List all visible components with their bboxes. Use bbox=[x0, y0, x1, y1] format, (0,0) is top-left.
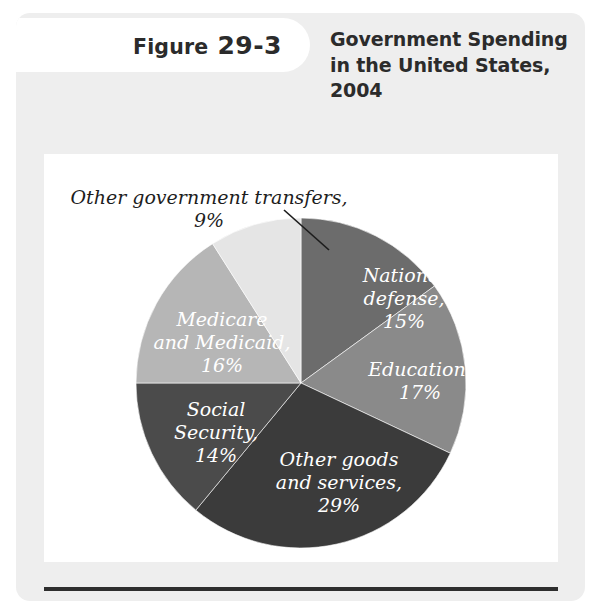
pie-slice-label-line: Medicare bbox=[175, 308, 267, 330]
pie-slice-label-line: and Medicaid, bbox=[154, 331, 291, 353]
figure-number: 29-3 bbox=[217, 31, 282, 60]
figure-number-badge-text: Figure29-3 bbox=[133, 31, 282, 60]
pie-slice-label-line: 29% bbox=[317, 494, 360, 516]
pie-slice-label-line: 15% bbox=[383, 310, 425, 332]
figure-card: Figure29-3 Government Spending in the Un… bbox=[16, 13, 585, 601]
figure-title: Government Spending in the United States… bbox=[330, 27, 580, 104]
figure-label: Figure bbox=[133, 35, 209, 59]
pie-chart-svg: Nationaldefense,15%Education,17%Other go… bbox=[44, 154, 558, 562]
pie-slice-label-line: 17% bbox=[399, 381, 441, 403]
pie-slice-label-line: 16% bbox=[201, 354, 243, 376]
pie-slice-label-line: Other government transfers, bbox=[70, 186, 347, 208]
pie-slice-label-line: Other goods bbox=[280, 448, 399, 470]
figure-bottom-rule bbox=[44, 587, 558, 591]
pie-chart: Nationaldefense,15%Education,17%Other go… bbox=[44, 154, 558, 562]
pie-slice-label-line: Education, bbox=[367, 358, 472, 380]
pie-slice-label-line: 9% bbox=[194, 209, 224, 231]
chart-panel: Nationaldefense,15%Education,17%Other go… bbox=[44, 154, 558, 562]
pie-slice-label-line: Security, bbox=[174, 421, 258, 443]
figure-number-badge: Figure29-3 bbox=[16, 18, 310, 72]
pie-slice-label-line: and services, bbox=[276, 471, 402, 493]
pie-slice-label-line: Social bbox=[187, 398, 246, 420]
pie-slice-label-line: National bbox=[362, 264, 446, 286]
figure-header: Figure29-3 Government Spending in the Un… bbox=[16, 13, 585, 151]
pie-slice-label-line: defense, bbox=[364, 287, 445, 309]
pie-slice-label-line: 14% bbox=[195, 444, 237, 466]
